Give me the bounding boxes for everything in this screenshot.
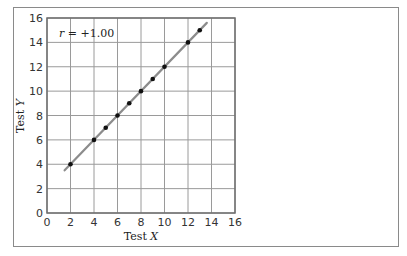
y-tick-label: 6 (36, 134, 43, 147)
y-tick-label: 10 (29, 85, 43, 98)
y-tick-label: 12 (29, 61, 43, 74)
x-tick-label: 2 (67, 216, 74, 229)
y-tick-label: 16 (29, 12, 43, 25)
grid-lines (47, 18, 235, 213)
data-point (162, 64, 167, 69)
y-tick-label: 2 (36, 183, 43, 196)
data-point (92, 138, 97, 143)
x-tick-label: 16 (228, 216, 242, 229)
data-point (197, 28, 202, 33)
y-tick-label: 14 (29, 36, 43, 49)
y-axis-tick-labels: 0246810121416 (29, 12, 43, 220)
y-axis-label: Test Y (14, 97, 27, 133)
x-tick-label: 10 (158, 216, 172, 229)
x-tick-label: 6 (114, 216, 121, 229)
y-tick-label: 4 (36, 158, 43, 171)
x-axis-label: Test X (124, 230, 160, 243)
x-tick-label: 12 (181, 216, 195, 229)
x-tick-label: 0 (44, 216, 51, 229)
data-point (103, 125, 108, 130)
data-point (68, 162, 73, 167)
x-tick-label: 14 (205, 216, 219, 229)
scatter-chart: 0246810121416 0246810121416 r = +1.00 Te… (0, 0, 407, 256)
y-tick-label: 0 (36, 207, 43, 220)
data-point (150, 77, 155, 82)
x-tick-label: 8 (138, 216, 145, 229)
y-tick-label: 8 (36, 110, 43, 123)
data-point (139, 89, 144, 94)
data-point (186, 40, 191, 45)
x-tick-label: 4 (91, 216, 98, 229)
correlation-annotation: r = +1.00 (59, 27, 114, 40)
data-point (127, 101, 132, 106)
data-point (115, 113, 120, 118)
regression-line (65, 23, 207, 170)
x-axis-tick-labels: 0246810121416 (44, 216, 243, 229)
